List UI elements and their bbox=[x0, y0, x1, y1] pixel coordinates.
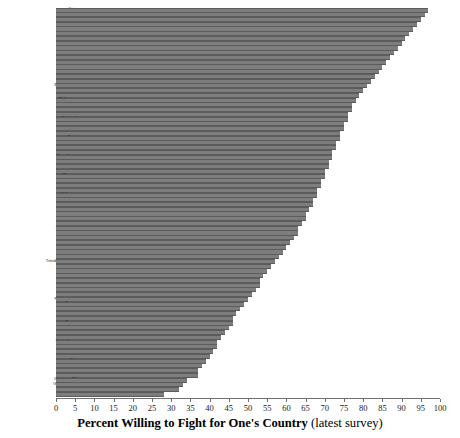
chart-row: Japan bbox=[0, 391, 460, 396]
x-axis-tick-label: 100 bbox=[434, 403, 447, 413]
x-axis-tick bbox=[190, 399, 191, 402]
x-axis-tick-label: 0 bbox=[54, 403, 58, 413]
x-axis-tick bbox=[382, 399, 383, 402]
x-axis-tick bbox=[363, 399, 364, 402]
x-axis-tick bbox=[248, 399, 249, 402]
x-axis-tick-label: 40 bbox=[205, 403, 214, 413]
x-axis-tick bbox=[210, 399, 211, 402]
x-axis-tick-label: 95 bbox=[417, 403, 426, 413]
x-axis-tick-label: 90 bbox=[397, 403, 406, 413]
x-axis-tick bbox=[402, 399, 403, 402]
x-axis-tick bbox=[152, 399, 153, 402]
x-axis-tick bbox=[133, 399, 134, 402]
x-axis-tick-label: 35 bbox=[186, 403, 195, 413]
x-axis-tick bbox=[306, 399, 307, 402]
x-axis-tick-label: 60 bbox=[282, 403, 291, 413]
x-axis-tick-label: 20 bbox=[129, 403, 138, 413]
x-axis-tick bbox=[344, 399, 345, 402]
x-axis-tick-label: 25 bbox=[148, 403, 157, 413]
x-axis-tick bbox=[94, 399, 95, 402]
x-axis-tick-label: 5 bbox=[73, 403, 77, 413]
x-axis-tick-label: 45 bbox=[225, 403, 234, 413]
x-axis-title-light: (latest survey) bbox=[311, 416, 383, 430]
x-axis-tick bbox=[325, 399, 326, 402]
bar-chart: QatarBangladeshVietnamRwandaUzbekistanTa… bbox=[0, 0, 460, 438]
x-axis-tick bbox=[440, 399, 441, 402]
x-axis-title-bold: Percent Willing to Fight for One's Count… bbox=[77, 416, 308, 430]
x-axis-tick bbox=[56, 399, 57, 402]
x-axis-tick-label: 75 bbox=[340, 403, 349, 413]
x-axis-tick-label: 85 bbox=[378, 403, 387, 413]
x-axis-tick-label: 15 bbox=[109, 403, 118, 413]
x-axis-tick bbox=[286, 399, 287, 402]
x-axis-tick-label: 80 bbox=[359, 403, 368, 413]
x-axis-tick bbox=[114, 399, 115, 402]
x-axis-tick bbox=[267, 399, 268, 402]
x-axis-tick-label: 50 bbox=[244, 403, 253, 413]
x-axis-tick-label: 70 bbox=[321, 403, 330, 413]
x-axis-tick-label: 55 bbox=[263, 403, 272, 413]
x-axis-tick-label: 65 bbox=[301, 403, 310, 413]
plot-area: QatarBangladeshVietnamRwandaUzbekistanTa… bbox=[0, 0, 460, 400]
x-axis-tick bbox=[171, 399, 172, 402]
x-axis-tick bbox=[75, 399, 76, 402]
x-axis-title: Percent Willing to Fight for One's Count… bbox=[0, 416, 460, 431]
x-axis: 0510152025303540455055606570758085909510… bbox=[0, 398, 460, 416]
x-axis-tick-label: 30 bbox=[167, 403, 176, 413]
x-axis-tick-label: 10 bbox=[90, 403, 99, 413]
x-axis-tick bbox=[229, 399, 230, 402]
bar bbox=[56, 392, 164, 397]
x-axis-tick bbox=[421, 399, 422, 402]
